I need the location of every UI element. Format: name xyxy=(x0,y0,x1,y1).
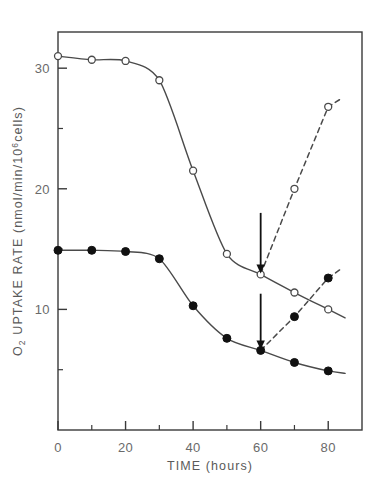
y-title-mid: UPTAKE RATE (nmol/min/10 xyxy=(11,148,25,340)
y-axis-tick-labels: 102030 xyxy=(35,61,50,317)
data-series-layer xyxy=(58,56,345,373)
frame-border xyxy=(58,32,362,430)
series-line-filled-circle-control xyxy=(58,250,345,373)
data-point-open-circle xyxy=(291,289,298,296)
arrow-upper xyxy=(256,213,264,274)
data-point-filled-circle xyxy=(122,248,130,256)
x-title-unit: (hours) xyxy=(206,459,253,473)
data-point-open-circle xyxy=(156,77,163,84)
y-title-suffix: cells) xyxy=(11,106,25,142)
x-tick-label: 0 xyxy=(54,440,62,455)
x-axis-title: TIME (hours) xyxy=(167,459,253,473)
data-marker-layer xyxy=(54,53,332,375)
data-point-filled-circle xyxy=(290,358,298,366)
y-title-prefix: O xyxy=(11,345,25,356)
x-tick-label: 40 xyxy=(185,440,200,455)
data-point-open-circle xyxy=(122,57,129,64)
x-tick-label: 80 xyxy=(321,440,336,455)
x-tick-label: 60 xyxy=(253,440,268,455)
data-point-filled-circle xyxy=(88,246,96,254)
y-axis-ticks xyxy=(58,68,67,370)
y-tick-label: 20 xyxy=(35,182,50,197)
figure-container: 020406080 102030 TIME (hours) O2 UPTAKE … xyxy=(0,0,382,496)
data-point-filled-circle xyxy=(155,255,163,263)
data-point-open-circle xyxy=(223,250,230,257)
data-point-filled-circle xyxy=(189,302,197,310)
data-point-open-circle xyxy=(190,167,197,174)
data-point-open-circle xyxy=(325,103,332,110)
data-point-filled-circle xyxy=(223,334,231,342)
annotation-arrow-layer xyxy=(256,213,264,349)
data-point-open-circle xyxy=(291,185,298,192)
x-axis-tick-labels: 020406080 xyxy=(54,440,336,455)
y-tick-label: 30 xyxy=(35,61,50,76)
x-title-main: TIME xyxy=(167,459,206,473)
data-point-filled-circle xyxy=(324,367,332,375)
x-axis-ticks xyxy=(58,421,328,430)
arrow-lower xyxy=(256,294,264,350)
chart-canvas: 020406080 102030 TIME (hours) O2 UPTAKE … xyxy=(0,0,382,496)
y-tick-label: 10 xyxy=(35,302,50,317)
data-point-open-circle xyxy=(55,53,62,60)
data-point-open-circle xyxy=(325,306,332,313)
y-axis-title: O2 UPTAKE RATE (nmol/min/106cells) xyxy=(10,106,27,356)
series-line-open-circle-control xyxy=(58,56,345,318)
series-line-open-circle-recovery xyxy=(261,98,342,274)
data-point-open-circle xyxy=(88,56,95,63)
plot-frame xyxy=(58,32,362,430)
x-tick-label: 20 xyxy=(118,440,133,455)
data-point-filled-circle xyxy=(324,274,332,282)
data-point-filled-circle xyxy=(54,246,62,254)
data-point-filled-circle xyxy=(290,313,298,321)
